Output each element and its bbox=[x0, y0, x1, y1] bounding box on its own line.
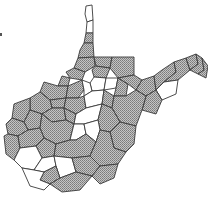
county-hancock bbox=[85, 5, 93, 22]
county-wirt bbox=[50, 98, 66, 108]
county-ohio bbox=[84, 33, 93, 43]
county-pleasants bbox=[58, 76, 70, 86]
county-marion bbox=[92, 66, 110, 78]
county-marshall bbox=[78, 43, 94, 58]
west-virginia-county-map bbox=[0, 0, 208, 201]
county-preston bbox=[110, 57, 134, 78]
county-harrison bbox=[90, 77, 106, 91]
county-brooke bbox=[86, 20, 93, 33]
map-marker-dot bbox=[0, 33, 2, 36]
county-layer bbox=[4, 5, 208, 192]
